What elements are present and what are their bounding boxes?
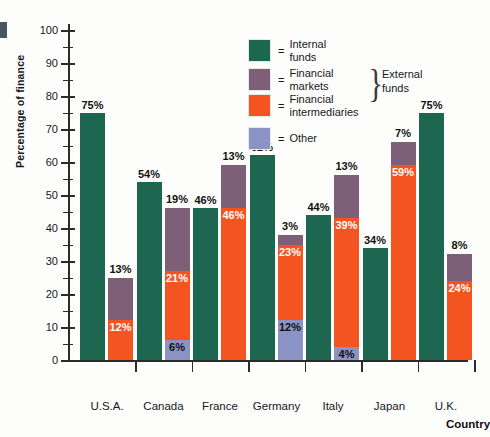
segment-other: 12% xyxy=(278,320,303,360)
value-label-markets: 13% xyxy=(335,161,357,172)
legend-label-markets: Financial markets xyxy=(289,67,333,92)
legend-equals-sign: = xyxy=(278,74,284,86)
segment-internal-funds xyxy=(250,155,275,360)
external-funds-label: External funds xyxy=(382,68,422,96)
y-tick-label: 30 xyxy=(46,255,58,267)
bar-group: 75%12%13% xyxy=(80,24,134,362)
y-tick-minor xyxy=(63,311,73,312)
y-tick xyxy=(61,360,75,362)
value-label-internal: 34% xyxy=(364,235,386,246)
legend-swatch-other xyxy=(248,127,271,150)
y-tick-minor xyxy=(63,146,73,147)
value-label-intermediaries: 59% xyxy=(392,167,414,178)
value-label-internal: 75% xyxy=(420,100,442,111)
bar-external-funds: 12%23%3% xyxy=(278,235,303,360)
x-category-label: France xyxy=(202,400,238,412)
segment-markets: 13% xyxy=(334,175,359,218)
value-label-intermediaries: 12% xyxy=(109,322,131,333)
value-label-internal: 44% xyxy=(307,202,329,213)
x-axis-title: Country xyxy=(446,418,490,430)
bar-internal-funds: 34% xyxy=(363,248,388,360)
y-tick-label: 0 xyxy=(52,354,58,366)
segment-markets: 13% xyxy=(221,165,246,208)
bar-external-funds: –7%24%8% xyxy=(447,254,472,360)
y-tick xyxy=(61,63,75,65)
y-tick xyxy=(61,261,75,263)
legend-swatch-markets xyxy=(248,68,271,91)
bar-group: 46%–5%46%13% xyxy=(193,24,247,362)
bar-external-funds: 4%39%13% xyxy=(334,175,359,360)
bar-group: 54%6%21%19% xyxy=(137,24,191,362)
y-tick-label: 80 xyxy=(46,90,58,102)
value-label-intermediaries: 24% xyxy=(448,283,470,294)
legend-equals-sign: = xyxy=(278,45,284,57)
segment-intermediaries: 59% xyxy=(391,165,416,360)
bar-internal-funds: 44% xyxy=(306,215,331,360)
legend-item-other: =Other xyxy=(248,127,317,150)
y-tick-minor xyxy=(63,278,73,279)
y-tick-label: 50 xyxy=(46,189,58,201)
value-label-markets: 8% xyxy=(452,240,468,251)
value-label-markets: 13% xyxy=(109,264,131,275)
page-edge-mark xyxy=(0,22,7,38)
bar-external-funds: 59%7% xyxy=(391,142,416,360)
segment-internal-funds xyxy=(363,248,388,360)
y-tick-minor xyxy=(63,212,73,213)
bar-external-funds: 12%13% xyxy=(108,278,133,361)
bar-internal-funds: 62% xyxy=(250,155,275,360)
value-label-internal: 46% xyxy=(194,195,216,206)
value-label-internal: 75% xyxy=(81,100,103,111)
value-label-markets: 7% xyxy=(395,128,411,139)
segment-internal-funds xyxy=(193,208,218,360)
legend-label-internal: Internal funds xyxy=(289,38,326,63)
segment-internal-funds xyxy=(137,182,162,360)
y-tick xyxy=(61,294,75,296)
legend-swatch-intermediaries xyxy=(248,94,271,117)
bar-internal-funds: 46% xyxy=(193,208,218,360)
y-tick xyxy=(61,162,75,164)
y-tick-label: 10 xyxy=(46,321,58,333)
x-category-label: Germany xyxy=(253,400,300,412)
segment-internal-funds xyxy=(419,113,444,361)
y-tick-label: 60 xyxy=(46,156,58,168)
segment-intermediaries: 21% xyxy=(165,271,190,340)
legend-item-intermediaries: =Financial intermediaries xyxy=(248,93,359,118)
value-label-markets: 19% xyxy=(166,194,188,205)
bar-internal-funds: 75% xyxy=(419,113,444,361)
y-tick-minor xyxy=(63,80,73,81)
segment-markets: 19% xyxy=(165,208,190,271)
x-category-label: Japan xyxy=(374,400,405,412)
bar-external-funds: –5%46%13% xyxy=(221,165,246,360)
legend-equals-sign: = xyxy=(278,100,284,112)
value-label-internal: 54% xyxy=(138,169,160,180)
legend-equals-sign: = xyxy=(278,133,284,145)
legend-item-markets: =Financial markets xyxy=(248,67,333,92)
segment-other: 4% xyxy=(334,347,359,360)
y-tick-label: 90 xyxy=(46,57,58,69)
segment-other: 6% xyxy=(165,340,190,360)
x-category-label: U.K. xyxy=(435,400,457,412)
value-label-other: 6% xyxy=(169,342,185,353)
segment-intermediaries: 12% xyxy=(108,320,133,360)
y-tick-minor xyxy=(63,245,73,246)
segment-intermediaries: 46% xyxy=(221,208,246,360)
y-tick xyxy=(61,327,75,329)
segment-markets: 13% xyxy=(108,278,133,321)
legend-label-intermediaries: Financial intermediaries xyxy=(289,93,358,118)
x-category-label: Canada xyxy=(143,400,183,412)
segment-markets: 3% xyxy=(278,235,303,245)
bar-group: 75%–7%24%8% xyxy=(419,24,473,362)
value-label-intermediaries: 46% xyxy=(222,210,244,221)
y-tick xyxy=(61,129,75,131)
y-tick-label: 20 xyxy=(46,288,58,300)
y-axis-title: Percentage of finance xyxy=(14,18,26,168)
y-tick-minor xyxy=(63,179,73,180)
y-tick xyxy=(61,195,75,197)
y-tick xyxy=(61,30,75,32)
value-label-other: 4% xyxy=(339,349,355,360)
value-label-intermediaries: 39% xyxy=(335,220,357,231)
y-tick-minor xyxy=(63,344,73,345)
y-tick-minor xyxy=(63,47,73,48)
y-tick-label: 100 xyxy=(40,24,58,36)
